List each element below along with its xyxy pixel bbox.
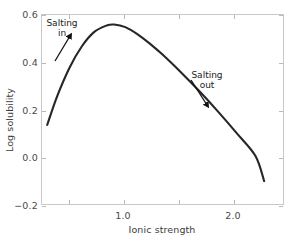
y-tick-label: 0.2 [22, 105, 38, 116]
x-tick-mark [69, 200, 70, 204]
y-tick-mark [279, 158, 283, 159]
salting-out-line1: Salting [186, 70, 228, 80]
salting-in-label: Salting in [40, 18, 84, 38]
y-tick-label: 0.0 [22, 152, 38, 163]
y-tick-mark [279, 111, 283, 112]
chart-figure: 0.60.40.20.0−0.2 1.02.0 Log solubility I… [0, 0, 294, 239]
salting-in-line2: in [40, 28, 84, 38]
y-tick-label: −0.2 [14, 200, 38, 211]
x-tick-mark [179, 200, 180, 204]
y-tick-mark [42, 158, 46, 159]
x-tick-mark [124, 15, 125, 19]
x-tick-label: 2.0 [225, 210, 241, 221]
x-tick-mark [234, 15, 235, 19]
x-tick-label: 1.0 [115, 210, 131, 221]
salting-out-line2: out [186, 80, 228, 90]
x-tick-mark [124, 200, 125, 204]
y-tick-mark [42, 206, 46, 207]
y-tick-label: 0.4 [22, 57, 38, 68]
y-tick-mark [42, 111, 46, 112]
y-axis-title: Log solubility [4, 87, 15, 151]
x-tick-mark [234, 200, 235, 204]
y-tick-mark [279, 15, 283, 16]
y-tick-mark [279, 63, 283, 64]
x-tick-mark [179, 15, 180, 19]
salting-out-label: Salting out [186, 70, 228, 90]
plot-frame [41, 14, 284, 205]
y-tick-label: 0.6 [22, 9, 38, 20]
salting-in-line1: Salting [40, 18, 84, 28]
y-tick-mark [279, 206, 283, 207]
x-axis-title: Ionic strength [129, 224, 196, 235]
y-tick-mark [42, 63, 46, 64]
y-tick-mark [42, 15, 46, 16]
